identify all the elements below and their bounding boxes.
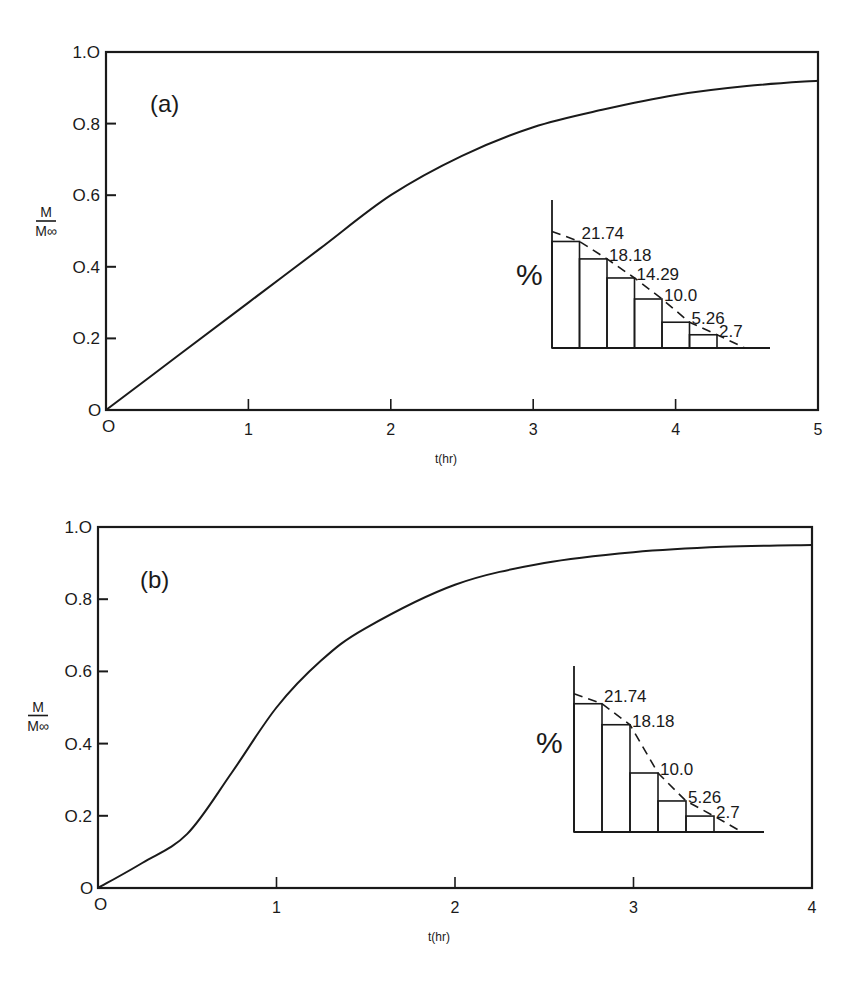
panel-b: O.2O.4O.6O.81.OOO1234t(hr)MM∞(b)%21.7418…: [27, 518, 816, 944]
y-tick-label: O.8: [73, 115, 100, 134]
y-axis-title-numerator: M: [40, 204, 52, 220]
y-axis-title-numerator: M: [32, 699, 44, 715]
origin-y-label: O: [88, 401, 101, 420]
data-curve: [98, 545, 812, 888]
y-tick-label: 1.O: [65, 518, 92, 537]
inset-bar-label: 10.0: [664, 286, 697, 305]
inset-bar-label: 14.29: [637, 265, 680, 284]
x-tick-label: 2: [386, 421, 395, 438]
panel-a: O.2O.4O.6O.81.OOO12345t(hr)MM∞(a)%21.741…: [35, 43, 822, 466]
y-tick-label: O.2: [73, 329, 100, 348]
x-tick-label: 1: [272, 899, 281, 916]
x-tick-label: 4: [808, 899, 817, 916]
y-tick-label: O.4: [65, 735, 92, 754]
inset-bar: [635, 299, 663, 348]
inset-bar: [607, 278, 635, 348]
inset-bar: [662, 322, 690, 348]
inset-histogram: %21.7418.1814.2910.05.262.7: [516, 200, 770, 348]
x-axis-title: t(hr): [435, 452, 457, 466]
y-axis-title-denominator: M∞: [27, 718, 49, 734]
x-tick-label: 3: [629, 899, 638, 916]
y-tick-label: O.6: [65, 662, 92, 681]
x-tick-label: 2: [451, 899, 460, 916]
panel-label: (a): [150, 90, 179, 117]
x-tick-label: 3: [529, 421, 538, 438]
y-tick-label: O.2: [65, 807, 92, 826]
panel-label: (b): [140, 566, 169, 593]
y-axis-title-denominator: M∞: [35, 223, 57, 239]
figure: O.2O.4O.6O.81.OOO12345t(hr)MM∞(a)%21.741…: [0, 0, 857, 984]
inset-bar: [574, 704, 602, 832]
y-tick-label: O.8: [65, 590, 92, 609]
inset-bar-label: 10.0: [660, 760, 693, 779]
inset-bar: [686, 816, 714, 832]
inset-percent-label: %: [516, 258, 543, 291]
inset-bar: [602, 725, 630, 832]
inset-bar: [690, 335, 718, 348]
inset-bar: [658, 801, 686, 832]
y-tick-label: 1.O: [73, 43, 100, 62]
plot-frame: [98, 527, 812, 888]
inset-bar: [580, 259, 608, 348]
inset-bar-label: 21.74: [582, 224, 625, 243]
x-tick-label: 1: [244, 421, 253, 438]
y-tick-label: O.6: [73, 186, 100, 205]
inset-bar: [552, 241, 580, 348]
inset-bar-label: 18.18: [632, 712, 675, 731]
inset-bar-label: 21.74: [604, 687, 647, 706]
x-tick-label: 5: [814, 421, 823, 438]
inset-bar-label: 18.18: [609, 246, 652, 265]
inset-histogram: %21.7418.1810.05.262.7: [536, 666, 764, 832]
x-axis-title: t(hr): [428, 930, 450, 944]
origin-x-label: O: [94, 895, 107, 914]
plot-frame: [106, 52, 818, 410]
origin-y-label: O: [80, 879, 93, 898]
data-curve: [106, 81, 818, 410]
y-tick-label: O.4: [73, 258, 100, 277]
inset-bar: [630, 773, 658, 832]
x-tick-label: 4: [671, 421, 680, 438]
origin-x-label: O: [102, 417, 115, 436]
inset-percent-label: %: [536, 726, 563, 759]
